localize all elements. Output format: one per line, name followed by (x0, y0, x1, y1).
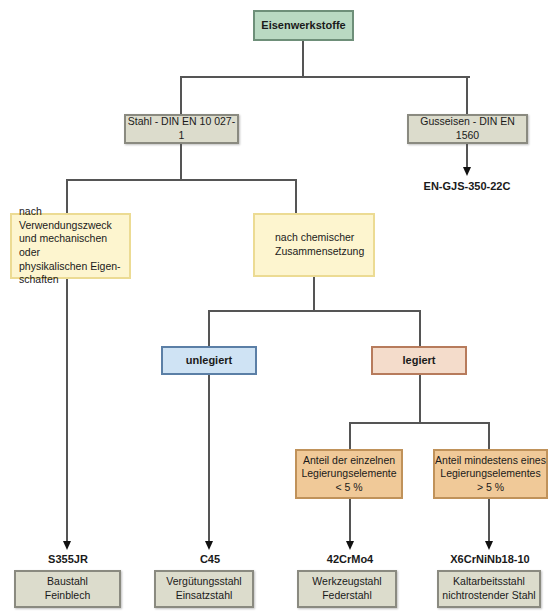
example-code: 42CrMo4 (327, 553, 373, 565)
node-label: Gusseisen - DIN EN 1560 (409, 115, 526, 142)
node-chemische-zusammensetzung: nach chemischer Zusammensetzung (253, 213, 375, 277)
connector (349, 422, 490, 424)
connector (488, 499, 490, 544)
connector (349, 499, 351, 544)
connector (302, 41, 304, 77)
connector (208, 310, 210, 348)
example-box-werkzeugstahl: Werkzeugstahl Federstahl (297, 570, 397, 608)
node-anteil-unter-5: Anteil der einzelnen Legierungselemente … (295, 449, 403, 499)
connector (419, 375, 421, 423)
node-label: Eisenwerkstoffe (261, 18, 345, 32)
node-text: nach Verwendungszweck und mechanischen o… (19, 205, 129, 287)
example-box-verguetungsstahl: Vergütungsstahl Einsatzstahl (154, 570, 254, 608)
node-verwendungszweck: nach Verwendungszweck und mechanischen o… (10, 213, 131, 279)
connector (208, 375, 210, 544)
node-label: Stahl - DIN EN 10 027-1 (126, 115, 237, 142)
node-label: legiert (402, 353, 435, 367)
node-anteil-ueber-5: Anteil mindestens eines Legierungselemen… (433, 449, 548, 499)
node-text: Baustahl Feinblech (45, 575, 91, 602)
connector (313, 277, 315, 311)
example-code-gusseisen: EN-GJS-350-22C (424, 180, 511, 192)
node-text: nach chemischer Zusammensetzung (275, 231, 364, 258)
connector (349, 422, 351, 450)
example-code: X6CrNiNb18-10 (450, 553, 529, 565)
arrow-head (205, 541, 213, 550)
connector (180, 76, 470, 78)
example-box-baustahl: Baustahl Feinblech (14, 570, 121, 608)
arrow-head (63, 541, 71, 550)
connector (419, 310, 421, 348)
arrow-head (346, 541, 354, 550)
connector (295, 179, 297, 214)
node-legiert: legiert (371, 346, 467, 375)
connector (180, 144, 182, 180)
node-stahl: Stahl - DIN EN 10 027-1 (124, 114, 239, 144)
node-text: Vergütungsstahl Einsatzstahl (166, 575, 241, 602)
node-text: Kaltarbeitsstahl nichtrostender Stahl (442, 575, 535, 602)
connector (488, 422, 490, 450)
node-gusseisen: Gusseisen - DIN EN 1560 (407, 114, 528, 144)
node-eisenwerkstoffe: Eisenwerkstoffe (253, 10, 354, 41)
arrow-head (463, 167, 471, 176)
node-text: Anteil der einzelnen Legierungselemente … (301, 454, 396, 495)
node-label: unlegiert (186, 353, 232, 367)
example-code: C45 (200, 553, 220, 565)
arrow-head (485, 541, 493, 550)
connector (66, 279, 68, 544)
node-text: Anteil mindestens eines Legierungselemen… (435, 454, 546, 495)
node-unlegiert: unlegiert (161, 346, 257, 375)
node-text: Werkzeugstahl Federstahl (312, 575, 381, 602)
connector (180, 76, 182, 116)
example-code: S355JR (48, 553, 88, 565)
connector (466, 144, 468, 168)
connector (66, 179, 297, 181)
example-box-kaltarbeitsstahl: Kaltarbeitsstahl nichtrostender Stahl (437, 570, 541, 608)
connector (208, 310, 421, 312)
connector (466, 76, 468, 116)
